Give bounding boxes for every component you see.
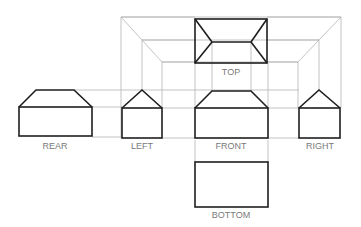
- front-view: FRONT: [195, 91, 268, 151]
- left-view-label: LEFT: [131, 141, 154, 151]
- bottom-view: BOTTOM: [195, 162, 268, 220]
- rear-view: REAR: [19, 90, 92, 151]
- projection-lines: [74, 17, 341, 162]
- front-view-label: FRONT: [216, 141, 247, 151]
- right-view: RIGHT: [299, 90, 340, 151]
- orthographic-views-diagram: TOP REAR LEFT FRONT RIGHT BOTTOM: [0, 0, 361, 227]
- right-view-label: RIGHT: [306, 141, 335, 151]
- rear-view-label: REAR: [42, 141, 68, 151]
- top-view: TOP: [195, 19, 267, 77]
- left-view: LEFT: [122, 90, 162, 151]
- bottom-view-label: BOTTOM: [212, 210, 250, 220]
- top-view-label: TOP: [222, 67, 240, 77]
